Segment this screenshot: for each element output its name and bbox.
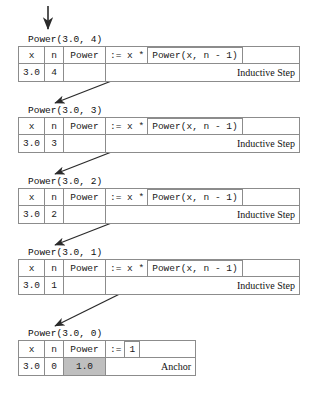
column-header-x: x	[19, 118, 45, 135]
frame-tag: Inductive Step	[237, 66, 295, 80]
value-x: 3.0	[19, 64, 45, 81]
value-x: 3.0	[19, 358, 45, 375]
column-header-x: x	[19, 260, 45, 277]
table-value-row: 3.0 4 Inductive Step	[19, 64, 299, 81]
call-label-0: Power(3.0, 4)	[28, 33, 300, 46]
value-power	[64, 206, 106, 223]
column-header-x: x	[19, 47, 45, 64]
anchor-value-box: 1	[124, 341, 140, 358]
table-header-row: x n Power := 1	[19, 341, 195, 358]
column-header-power: Power	[64, 189, 106, 206]
column-header-n: n	[45, 341, 64, 358]
frame-tag: Inductive Step	[237, 208, 295, 222]
value-n: 4	[45, 64, 64, 81]
frame-tag: Inductive Step	[237, 279, 295, 293]
frame-tag: Anchor	[161, 360, 191, 374]
value-power: 1.0	[64, 358, 106, 375]
value-n: 0	[45, 358, 64, 375]
value-power	[64, 277, 106, 294]
expression-area: := x * Power(x, n - 1)	[106, 47, 299, 64]
recursive-call-box: Power(x, n - 1)	[147, 118, 243, 135]
call-label-4: Power(3.0, 0)	[28, 327, 196, 340]
column-header-n: n	[45, 47, 64, 64]
assignment-operator: := x *	[106, 50, 147, 61]
recursive-call-box: Power(x, n - 1)	[147, 47, 243, 64]
column-header-n: n	[45, 189, 64, 206]
value-x: 3.0	[19, 277, 45, 294]
trace-table-4: x n Power := 1 3.0 0 1.0 Anchor	[18, 340, 196, 376]
call-frame-0: Power(3.0, 4) x n Power := x * Power(x, …	[18, 33, 300, 82]
call-frame-2: Power(3.0, 2) x n Power := x * Power(x, …	[18, 175, 300, 224]
column-header-n: n	[45, 118, 64, 135]
table-value-row: 3.0 0 1.0 Anchor	[19, 358, 195, 375]
trace-table-1: x n Power := x * Power(x, n - 1) 3.0 3 I…	[18, 117, 300, 153]
call-frame-1: Power(3.0, 3) x n Power := x * Power(x, …	[18, 104, 300, 153]
column-header-power: Power	[64, 341, 106, 358]
call-label-3: Power(3.0, 1)	[28, 246, 300, 259]
table-value-row: 3.0 2 Inductive Step	[19, 206, 299, 223]
expression-area: := 1	[106, 341, 195, 358]
trace-table-2: x n Power := x * Power(x, n - 1) 3.0 2 I…	[18, 188, 300, 224]
value-n: 3	[45, 135, 64, 152]
call-frame-4: Power(3.0, 0) x n Power := 1 3.0 0 1.0 A…	[18, 327, 196, 376]
table-header-row: x n Power := x * Power(x, n - 1)	[19, 118, 299, 135]
column-header-n: n	[45, 260, 64, 277]
column-header-power: Power	[64, 260, 106, 277]
value-power	[64, 135, 106, 152]
table-value-row: 3.0 3 Inductive Step	[19, 135, 299, 152]
assignment-operator: := x *	[106, 263, 147, 274]
call-frame-3: Power(3.0, 1) x n Power := x * Power(x, …	[18, 246, 300, 295]
recursion-trace-diagram: Power(3.0, 4) x n Power := x * Power(x, …	[0, 0, 319, 410]
recursive-call-box: Power(x, n - 1)	[147, 189, 243, 206]
table-value-row: 3.0 1 Inductive Step	[19, 277, 299, 294]
column-header-power: Power	[64, 118, 106, 135]
trace-table-0: x n Power := x * Power(x, n - 1) 3.0 4 I…	[18, 46, 300, 82]
recursive-call-box: Power(x, n - 1)	[147, 260, 243, 277]
table-header-row: x n Power := x * Power(x, n - 1)	[19, 47, 299, 64]
column-header-power: Power	[64, 47, 106, 64]
expression-area: := x * Power(x, n - 1)	[106, 118, 299, 135]
assignment-operator: :=	[106, 344, 124, 355]
call-label-1: Power(3.0, 3)	[28, 104, 300, 117]
value-n: 1	[45, 277, 64, 294]
table-header-row: x n Power := x * Power(x, n - 1)	[19, 260, 299, 277]
value-x: 3.0	[19, 206, 45, 223]
column-header-x: x	[19, 341, 45, 358]
call-label-2: Power(3.0, 2)	[28, 175, 300, 188]
value-x: 3.0	[19, 135, 45, 152]
value-n: 2	[45, 206, 64, 223]
value-power	[64, 64, 106, 81]
table-header-row: x n Power := x * Power(x, n - 1)	[19, 189, 299, 206]
frame-tag: Inductive Step	[237, 137, 295, 151]
assignment-operator: := x *	[106, 121, 147, 132]
expression-area: := x * Power(x, n - 1)	[106, 260, 299, 277]
expression-area: := x * Power(x, n - 1)	[106, 189, 299, 206]
trace-table-3: x n Power := x * Power(x, n - 1) 3.0 1 I…	[18, 259, 300, 295]
assignment-operator: := x *	[106, 192, 147, 203]
column-header-x: x	[19, 189, 45, 206]
